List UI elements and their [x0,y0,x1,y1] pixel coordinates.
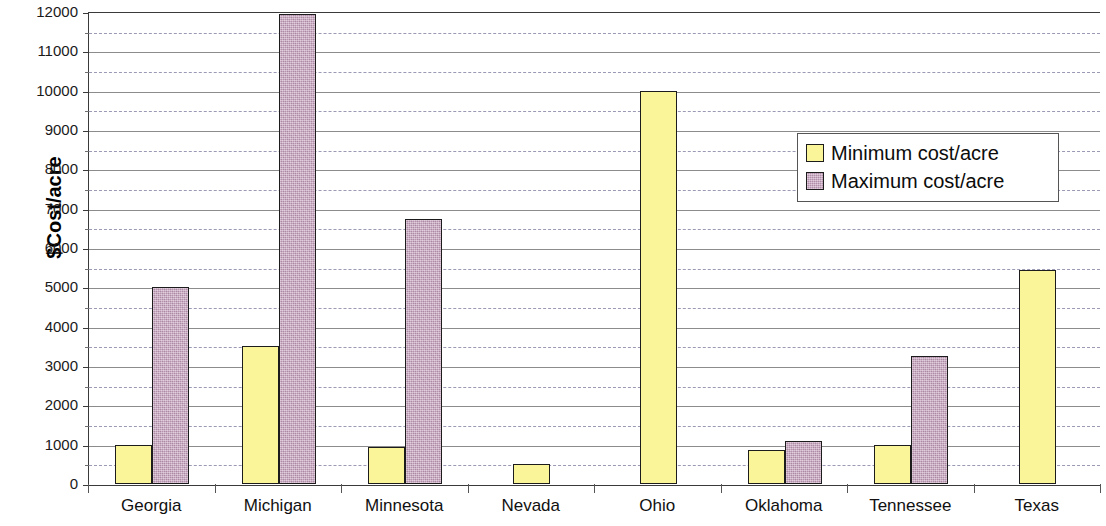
bar-tennessee-maximum[interactable] [911,356,948,484]
gridline-major [89,328,1100,329]
legend-swatch-maximum-icon [806,172,824,190]
y-tick-label: 2000 [8,396,78,413]
x-axis-tick [594,484,595,493]
gridline-major [89,131,1100,132]
bar-minnesota-minimum[interactable] [368,447,405,484]
y-tick-mark [83,446,89,447]
bar-minnesota-maximum[interactable] [405,219,442,485]
gridline-minor [89,387,1100,388]
y-tick-mark-minor [85,426,89,427]
x-axis-label-tennessee: Tennessee [847,496,974,516]
x-axis-tick [341,484,342,493]
y-tick-mark-minor [85,465,89,466]
gridline-major [89,406,1100,407]
y-tick-mark-minor [85,151,89,152]
gridline-major [89,92,1100,93]
legend-swatch-minimum-icon [806,144,824,162]
gridline-minor [89,347,1100,348]
plot-area [88,12,1100,484]
x-axis-label-nevada: Nevada [468,496,595,516]
y-tick-mark-minor [85,111,89,112]
gridline-major [89,52,1100,53]
x-axis-label-michigan: Michigan [215,496,342,516]
legend-item-minimum[interactable]: Minimum cost/acre [806,139,1050,167]
y-tick-mark-minor [85,33,89,34]
gridline-minor [89,33,1100,34]
x-axis-tick [721,484,722,493]
y-tick-mark-minor [85,387,89,388]
y-tick-label: 11000 [8,42,78,59]
y-tick-mark [83,131,89,132]
bar-tennessee-minimum[interactable] [874,445,911,484]
y-tick-mark [83,328,89,329]
bar-michigan-maximum[interactable] [279,14,316,484]
x-axis-label-oklahoma: Oklahoma [721,496,848,516]
gridline-major [89,367,1100,368]
gridline-minor [89,229,1100,230]
y-tick-mark [83,249,89,250]
y-tick-label: 5000 [8,278,78,295]
y-tick-label: 6000 [8,239,78,256]
y-tick-mark [83,52,89,53]
bar-oklahoma-maximum[interactable] [785,441,822,484]
gridline-major [89,210,1100,211]
y-tick-label: 8000 [8,160,78,177]
x-axis-tick [974,484,975,493]
x-axis-tick [468,484,469,493]
x-axis-label-minnesota: Minnesota [341,496,468,516]
y-tick-mark-minor [85,190,89,191]
x-axis-label-ohio: Ohio [594,496,721,516]
x-axis-tick [847,484,848,493]
bar-chart: $Cost/acre GeorgiaMichiganMinnesotaNevad… [0,0,1106,526]
legend-item-maximum[interactable]: Maximum cost/acre [806,167,1050,195]
y-tick-mark [83,13,89,14]
y-tick-mark-minor [85,308,89,309]
y-tick-mark-minor [85,269,89,270]
gridline-major [89,288,1100,289]
gridline-minor [89,72,1100,73]
y-tick-mark-minor [85,72,89,73]
gridline-major [89,446,1100,447]
chart-legend: Minimum cost/acre Maximum cost/acre [797,133,1059,202]
bar-georgia-maximum[interactable] [152,287,189,484]
y-tick-mark-minor [85,347,89,348]
bar-georgia-minimum[interactable] [115,445,152,484]
y-tick-mark [83,92,89,93]
y-tick-mark [83,210,89,211]
x-axis-label-georgia: Georgia [88,496,215,516]
gridline-minor [89,111,1100,112]
gridline-minor [89,465,1100,466]
gridline-minor [89,308,1100,309]
y-tick-mark [83,170,89,171]
legend-label-maximum: Maximum cost/acre [831,171,1004,191]
y-tick-label: 3000 [8,357,78,374]
legend-label-minimum: Minimum cost/acre [831,143,999,163]
x-axis-label-texas: Texas [974,496,1101,516]
y-tick-mark [83,406,89,407]
bar-oklahoma-minimum[interactable] [748,450,785,484]
bar-nevada-minimum[interactable] [513,464,550,484]
y-tick-mark [83,288,89,289]
gridline-major [89,249,1100,250]
x-axis-tick [1100,484,1101,493]
y-tick-mark [83,367,89,368]
y-tick-label: 7000 [8,200,78,217]
x-axis-tick [215,484,216,493]
y-tick-mark-minor [85,229,89,230]
bar-michigan-minimum[interactable] [242,346,279,484]
gridline-minor [89,269,1100,270]
bar-ohio-minimum[interactable] [640,91,677,484]
y-tick-label: 12000 [8,3,78,20]
x-axis-tick [88,484,89,493]
y-tick-label: 4000 [8,318,78,335]
y-tick-label: 1000 [8,436,78,453]
y-tick-label: 9000 [8,121,78,138]
bar-texas-minimum[interactable] [1019,270,1056,484]
gridline-minor [89,426,1100,427]
y-tick-label: 0 [8,475,78,492]
y-tick-label: 10000 [8,82,78,99]
